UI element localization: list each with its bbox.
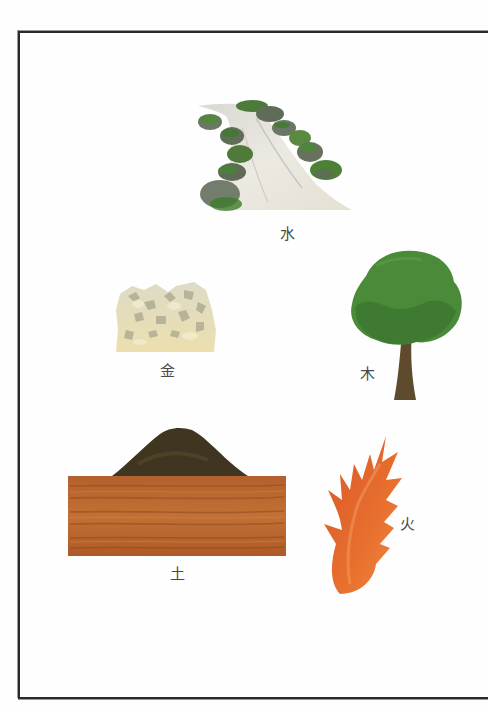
wood-label: 木 — [360, 367, 375, 382]
fire-illustration — [320, 434, 404, 594]
earth-label: 土 — [170, 567, 185, 582]
flame-icon — [320, 434, 404, 594]
metal-illustration — [114, 280, 218, 354]
water-label: 水 — [280, 227, 295, 242]
earth-illustration — [68, 424, 288, 556]
ore-rock-icon — [114, 280, 218, 354]
soil-mound-and-ground-icon — [68, 424, 288, 556]
water-illustration — [196, 98, 354, 214]
metal-label: 金 — [160, 364, 175, 379]
illustrated-page: 水 — [0, 0, 488, 706]
waterfall-with-mossy-rocks-icon — [196, 98, 354, 214]
fire-label: 火 — [400, 517, 415, 532]
